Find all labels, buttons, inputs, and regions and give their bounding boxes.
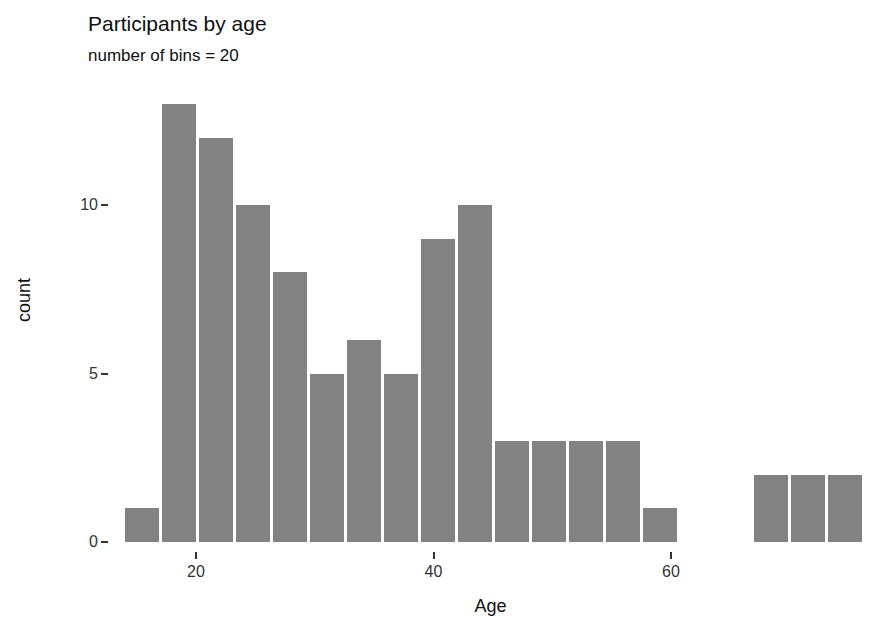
histogram-bar xyxy=(421,239,455,542)
histogram-bar xyxy=(347,340,381,542)
histogram-bar xyxy=(791,475,825,542)
x-tick-mark-60 xyxy=(670,552,672,559)
x-tick-label-60: 60 xyxy=(662,563,680,581)
histogram-bar xyxy=(458,205,492,542)
chart-figure: Participants by age number of bins = 20 … xyxy=(0,0,891,634)
histogram-bar xyxy=(754,475,788,542)
y-tick-label-0: 0 xyxy=(89,533,98,551)
x-tick-label-20: 20 xyxy=(187,563,205,581)
histogram-bar xyxy=(236,205,270,542)
x-tick-label-40: 40 xyxy=(425,563,443,581)
y-tick-label-10: 10 xyxy=(80,196,98,214)
histogram-bar xyxy=(199,138,233,542)
histogram-bar xyxy=(643,508,677,542)
plot-panel: 0510 204060 xyxy=(0,0,891,634)
y-tick-label-5: 5 xyxy=(89,365,98,383)
histogram-bar xyxy=(125,508,159,542)
histogram-bar xyxy=(606,441,640,542)
x-tick-mark-40 xyxy=(433,552,435,559)
histogram-bar xyxy=(828,475,862,542)
y-tick-mark-0 xyxy=(101,541,108,543)
histogram-bar xyxy=(569,441,603,542)
histogram-bar xyxy=(162,104,196,542)
histogram-bar xyxy=(384,374,418,543)
histogram-bar xyxy=(273,272,307,542)
histogram-bar xyxy=(532,441,566,542)
x-tick-mark-20 xyxy=(195,552,197,559)
histogram-bar xyxy=(495,441,529,542)
histogram-bar xyxy=(310,374,344,543)
y-tick-mark-10 xyxy=(101,204,108,206)
y-tick-mark-5 xyxy=(101,373,108,375)
